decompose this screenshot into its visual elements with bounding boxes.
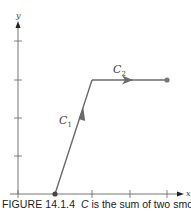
- caption-symbol: C: [81, 198, 89, 210]
- y-axis-label: y: [15, 11, 21, 20]
- start-point: [52, 191, 57, 196]
- figure-caption: FIGURE 14.1.4 C is the sum of two smooth…: [2, 198, 191, 210]
- figure-number: FIGURE 14.1.4: [2, 198, 75, 210]
- plot: y x C1 C2: [0, 0, 191, 200]
- y-axis: [14, 21, 22, 194]
- curve-c2: [92, 76, 167, 85]
- c1-label: C1: [59, 114, 72, 129]
- y-axis-arrow-icon: [16, 21, 21, 28]
- c2-label: C2: [113, 63, 126, 78]
- figure: y x C1 C2 FIGURE 14.1.4 C is the sum of …: [0, 0, 191, 220]
- x-axis-label: x: [186, 189, 191, 198]
- curve-c1: [55, 80, 92, 194]
- x-axis-arrow-icon: [177, 192, 184, 197]
- x-axis: [10, 190, 184, 198]
- caption-text: is the sum of two smooth curves.: [89, 198, 191, 210]
- end-point: [164, 77, 169, 82]
